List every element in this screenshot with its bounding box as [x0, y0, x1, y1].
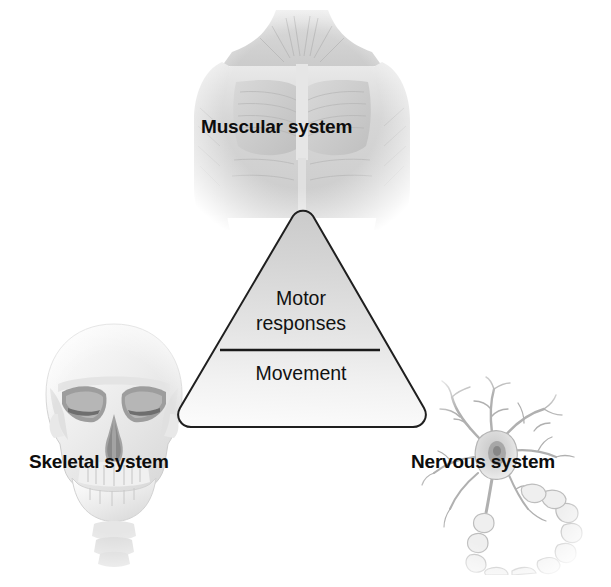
body-systems-diagram: Muscular system	[0, 0, 611, 587]
nervous-system-label: Nervous system	[411, 451, 555, 473]
muscular-system-label: Muscular system	[201, 116, 352, 138]
motor-line: Motor	[220, 286, 382, 311]
responses-line: responses	[220, 311, 382, 336]
motor-responses-text: Motor responses	[220, 286, 382, 336]
movement-text: Movement	[220, 361, 382, 386]
skeletal-system-label: Skeletal system	[29, 451, 169, 473]
